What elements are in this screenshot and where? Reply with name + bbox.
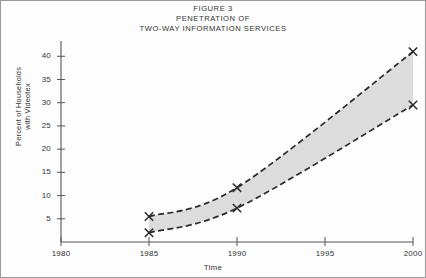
trend-lines (149, 52, 413, 233)
axes (61, 41, 413, 242)
y-tick-label: 10 (15, 191, 51, 200)
x-tick-label: 1980 (36, 249, 86, 258)
x-tick-label: 2000 (388, 249, 426, 258)
x-tick-label: 1990 (212, 249, 262, 258)
y-axis-title: Percent of Households with Videotex (14, 26, 33, 186)
data-point-markers (145, 47, 417, 236)
uncertainty-band (149, 52, 413, 233)
y-axis-title-line-2: with Videotex (23, 26, 32, 186)
x-axis-title: Time (1, 263, 425, 272)
trend-line-high (149, 52, 413, 217)
chart-canvas (1, 1, 426, 278)
y-tick-label: 5 (15, 214, 51, 223)
x-tick-label: 1985 (124, 249, 174, 258)
y-axis-title-line-1: Percent of Households (14, 26, 23, 186)
band-fill (149, 52, 413, 233)
figure-frame: FIGURE 3 PENETRATION OF TWO-WAY INFORMAT… (0, 0, 426, 278)
x-tick-label: 1995 (300, 249, 350, 258)
